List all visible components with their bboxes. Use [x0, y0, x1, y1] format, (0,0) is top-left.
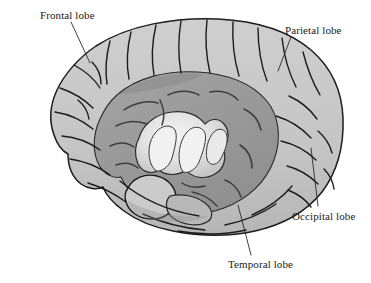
brain-diagram-figure: Frontal lobe Parietal lobe Occipital lob…	[0, 0, 371, 283]
label-occipital-lobe: Occipital lobe	[292, 210, 355, 222]
brain-body	[51, 19, 343, 235]
label-parietal-lobe: Parietal lobe	[285, 24, 342, 36]
label-frontal-lobe: Frontal lobe	[40, 9, 95, 21]
brain-illustration	[0, 0, 371, 283]
label-temporal-lobe: Temporal lobe	[228, 258, 293, 270]
leader-line-frontal	[71, 22, 90, 63]
